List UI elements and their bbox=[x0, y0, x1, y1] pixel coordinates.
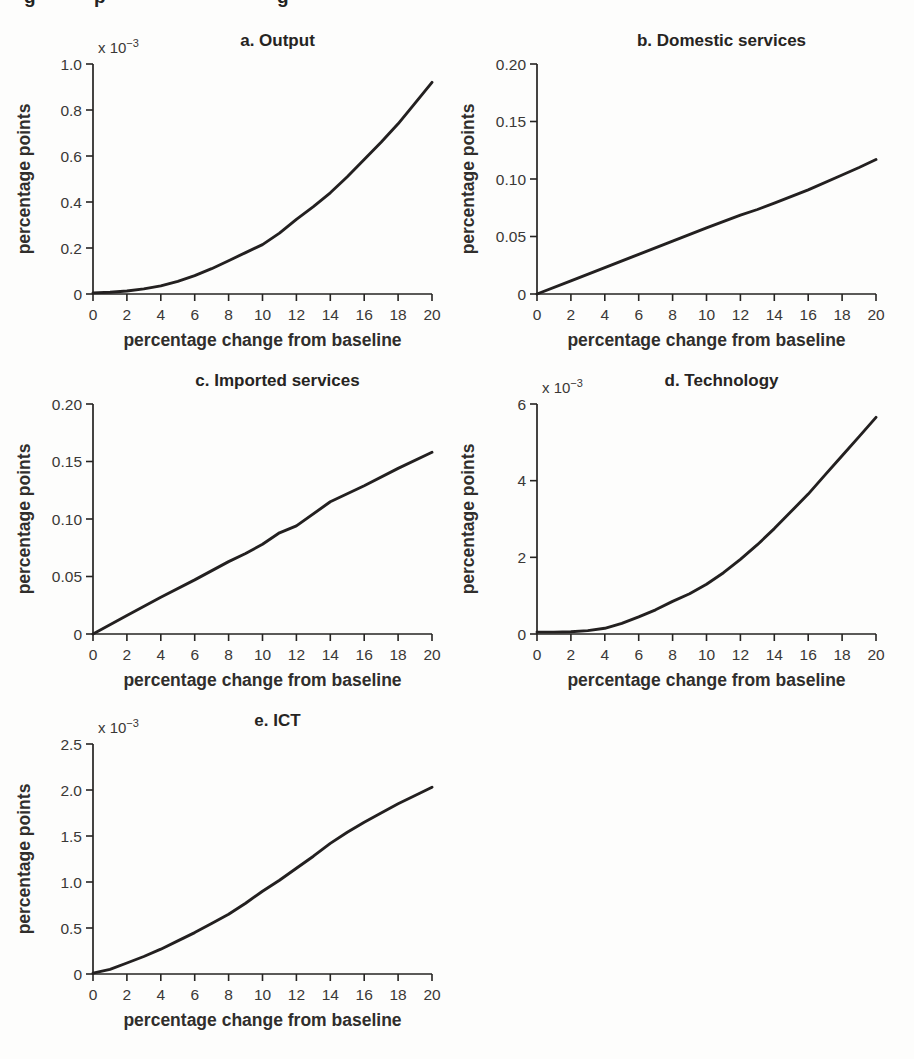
axes bbox=[93, 744, 432, 974]
y-tick-label: 0 bbox=[73, 966, 82, 983]
y-tick-label: 2 bbox=[517, 549, 526, 566]
x-tick-label: 20 bbox=[423, 986, 441, 1003]
x-tick-label: 12 bbox=[288, 306, 305, 323]
y-tick-label: 0.8 bbox=[60, 102, 82, 119]
x-tick-label: 12 bbox=[288, 986, 305, 1003]
x-axis-label: percentage change from baseline bbox=[123, 330, 401, 350]
x-tick-label: 0 bbox=[89, 986, 98, 1003]
chart-title: c. Imported services bbox=[195, 371, 359, 390]
x-tick-label: 10 bbox=[254, 646, 272, 663]
y-axis-label: percentage points bbox=[14, 783, 34, 934]
chart-svg-b: 00.050.100.150.2002468101214161820b. Dom… bbox=[452, 28, 907, 368]
chart-panel-d: 024602468101214161820d. Technologyx 10−3… bbox=[452, 368, 907, 708]
y-scale-label: x 10−3 bbox=[98, 37, 139, 56]
x-tick-label: 2 bbox=[567, 646, 576, 663]
x-tick-label: 16 bbox=[800, 646, 817, 663]
y-tick-label: 0.15 bbox=[496, 113, 526, 130]
y-tick-label: 4 bbox=[517, 472, 526, 489]
chart-svg-a: 00.20.40.60.81.002468101214161820a. Outp… bbox=[8, 28, 463, 368]
axes bbox=[537, 404, 876, 634]
x-tick-label: 4 bbox=[600, 646, 609, 663]
x-tick-label: 14 bbox=[766, 646, 784, 663]
y-tick-label: 0.10 bbox=[496, 171, 527, 188]
y-tick-label: 1.5 bbox=[60, 828, 82, 845]
chart-title: b. Domestic services bbox=[637, 31, 806, 50]
y-tick-label: 2.5 bbox=[60, 736, 82, 753]
x-tick-label: 20 bbox=[423, 646, 441, 663]
x-tick-label: 2 bbox=[123, 306, 132, 323]
x-tick-label: 2 bbox=[123, 646, 132, 663]
figure-page: gpg 00.20.40.60.81.002468101214161820a. … bbox=[0, 0, 914, 1059]
x-tick-label: 20 bbox=[423, 306, 441, 323]
x-tick-label: 8 bbox=[668, 306, 677, 323]
x-tick-label: 10 bbox=[698, 646, 716, 663]
axes bbox=[93, 64, 432, 294]
y-scale-label: x 10−3 bbox=[542, 377, 583, 396]
chart-svg-d: 024602468101214161820d. Technologyx 10−3… bbox=[452, 368, 907, 708]
x-tick-label: 20 bbox=[867, 646, 885, 663]
chart-svg-e: 00.51.01.52.02.502468101214161820e. ICTx… bbox=[8, 708, 463, 1048]
y-tick-label: 6 bbox=[517, 396, 526, 413]
x-tick-label: 14 bbox=[322, 306, 340, 323]
x-tick-label: 6 bbox=[190, 646, 199, 663]
x-tick-label: 6 bbox=[634, 646, 643, 663]
y-tick-label: 0.20 bbox=[52, 396, 83, 413]
chart-panel-b: 00.050.100.150.2002468101214161820b. Dom… bbox=[452, 28, 907, 368]
y-tick-label: 0.5 bbox=[60, 920, 82, 937]
y-axis-label: percentage points bbox=[458, 103, 478, 254]
x-tick-label: 4 bbox=[156, 306, 165, 323]
y-tick-label: 0.15 bbox=[52, 453, 82, 470]
x-tick-label: 18 bbox=[389, 986, 406, 1003]
x-tick-label: 4 bbox=[600, 306, 609, 323]
data-line-e bbox=[93, 787, 432, 973]
x-tick-label: 10 bbox=[698, 306, 716, 323]
chart-title: d. Technology bbox=[665, 371, 780, 390]
chart-panel-c: 00.050.100.150.2002468101214161820c. Imp… bbox=[8, 368, 463, 708]
x-tick-label: 6 bbox=[190, 306, 199, 323]
chart-title: a. Output bbox=[240, 31, 315, 50]
x-axis-label: percentage change from baseline bbox=[567, 330, 845, 350]
x-tick-label: 16 bbox=[800, 306, 817, 323]
x-tick-label: 16 bbox=[356, 306, 373, 323]
chart-title: e. ICT bbox=[254, 711, 301, 730]
chart-panel-e: 00.51.01.52.02.502468101214161820e. ICTx… bbox=[8, 708, 463, 1048]
x-tick-label: 18 bbox=[833, 646, 850, 663]
caption-fragment-letter: g bbox=[277, 0, 289, 8]
caption-fragment-letter: p bbox=[94, 0, 106, 8]
x-tick-label: 4 bbox=[156, 986, 165, 1003]
x-tick-label: 0 bbox=[533, 646, 542, 663]
x-tick-label: 6 bbox=[634, 306, 643, 323]
y-tick-label: 0.10 bbox=[52, 511, 83, 528]
data-line-c bbox=[93, 452, 432, 634]
x-tick-label: 18 bbox=[389, 306, 406, 323]
y-axis-label: percentage points bbox=[458, 443, 478, 594]
y-tick-label: 0 bbox=[517, 626, 526, 643]
y-tick-label: 2.0 bbox=[60, 782, 82, 799]
x-tick-label: 8 bbox=[224, 306, 233, 323]
y-scale-label: x 10−3 bbox=[98, 717, 139, 736]
y-tick-label: 0.4 bbox=[60, 194, 82, 211]
x-tick-label: 12 bbox=[288, 646, 305, 663]
x-tick-label: 18 bbox=[389, 646, 406, 663]
chart-svg-c: 00.050.100.150.2002468101214161820c. Imp… bbox=[8, 368, 463, 708]
x-tick-label: 8 bbox=[224, 986, 233, 1003]
x-tick-label: 10 bbox=[254, 306, 272, 323]
y-tick-label: 0.2 bbox=[60, 240, 82, 257]
axes bbox=[537, 64, 876, 294]
chart-panel-a: 00.20.40.60.81.002468101214161820a. Outp… bbox=[8, 28, 463, 368]
y-tick-label: 0.6 bbox=[60, 148, 82, 165]
x-tick-label: 18 bbox=[833, 306, 850, 323]
x-tick-label: 20 bbox=[867, 306, 885, 323]
x-tick-label: 12 bbox=[732, 646, 749, 663]
x-tick-label: 8 bbox=[224, 646, 233, 663]
y-tick-label: 0 bbox=[73, 286, 82, 303]
x-tick-label: 4 bbox=[156, 646, 165, 663]
x-tick-label: 14 bbox=[322, 986, 340, 1003]
y-tick-label: 0.20 bbox=[496, 56, 527, 73]
x-tick-label: 14 bbox=[322, 646, 340, 663]
x-tick-label: 16 bbox=[356, 986, 373, 1003]
caption-fragment-letter: g bbox=[24, 0, 36, 8]
x-tick-label: 14 bbox=[766, 306, 784, 323]
data-line-d bbox=[537, 417, 876, 632]
x-axis-label: percentage change from baseline bbox=[567, 670, 845, 690]
